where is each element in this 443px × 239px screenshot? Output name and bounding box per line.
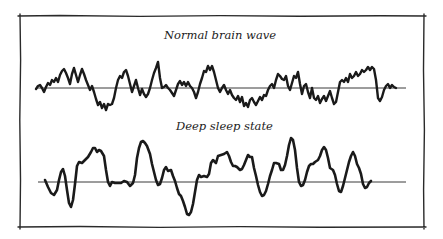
deep-sleep-wave-trace xyxy=(45,138,371,215)
normal-brain-wave-label: Normal brain wave xyxy=(164,28,276,42)
brain-wave-diagram: Normal brain wave Deep sleep state xyxy=(0,0,443,239)
deep-sleep-state-label: Deep sleep state xyxy=(176,119,273,133)
normal-brain-wave-trace xyxy=(36,62,396,110)
